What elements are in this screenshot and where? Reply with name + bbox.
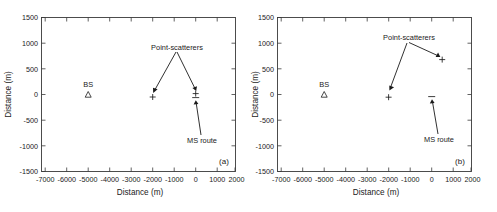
x-tick-label: -4000: [101, 175, 119, 184]
y-tick-label: -1000: [20, 142, 38, 151]
x-tick-label: -2000: [144, 175, 162, 184]
x-tick-label: -7000: [36, 175, 54, 184]
x-tick-label: -6000: [294, 175, 312, 184]
x-tick-label: 1000: [209, 175, 225, 184]
bs-marker-a: [85, 92, 91, 98]
x-axis-title: Distance (m): [117, 188, 164, 197]
y-tick-label: 1000: [258, 39, 274, 48]
bs-label-b: BS: [319, 80, 329, 89]
point-scatterers-label-b: Point-scatterers: [383, 33, 435, 42]
x-tick-label: 0: [194, 175, 198, 184]
y-tick-label: 1000: [22, 39, 38, 48]
scatterer-markers-a: [150, 91, 199, 100]
x-tick-label: -7000: [272, 175, 290, 184]
plot-frame-b: [278, 18, 472, 172]
y-tick-label: 500: [262, 65, 274, 74]
x-tick-label: 0: [430, 175, 434, 184]
x-axis-ticks-b: [281, 18, 471, 172]
bs-label-a: BS: [83, 80, 93, 89]
y-tick-label: -500: [260, 116, 274, 125]
y-tick-label: 500: [26, 65, 38, 74]
panel-b-plot: 1500 1000 500 0 -500 -1000 -1500 -7000 -…: [249, 0, 497, 212]
bs-marker-b: [321, 92, 327, 98]
y-axis-ticks-b: [278, 18, 472, 172]
point-scatterers-leader-a: [153, 52, 197, 93]
y-tick-label: 0: [34, 90, 38, 99]
y-axis-title: Distance (m): [4, 71, 13, 118]
y-axis-ticks-a: [42, 18, 236, 172]
x-axis-ticks-a: [45, 18, 235, 172]
x-tick-label: -3000: [358, 175, 376, 184]
x-axis-title: Distance (m): [353, 188, 400, 197]
x-tick-label: -3000: [122, 175, 140, 184]
y-tick-label: -1000: [256, 142, 274, 151]
point-scatterers-leader-b: [389, 43, 440, 91]
x-tick-label: -6000: [58, 175, 76, 184]
ms-route-label-b: MS route: [424, 135, 454, 144]
y-tick-label: 0: [270, 90, 274, 99]
y-tick-label: 1500: [22, 13, 38, 22]
x-tick-label: -1000: [401, 175, 419, 184]
scatterer-markers-b: [386, 57, 446, 101]
panel-tag-b: (b): [455, 157, 465, 166]
x-tick-label: -1000: [165, 175, 183, 184]
plot-frame-a: [42, 18, 236, 172]
x-tick-label: -2000: [380, 175, 398, 184]
y-tick-label: 1500: [258, 13, 274, 22]
y-tick-label: -500: [24, 116, 38, 125]
panel-a-plot: 1500 1000 500 0 -500 -1000 -1500 -7000 -…: [0, 0, 248, 212]
ms-route-leader-b: [430, 99, 438, 134]
panel-a: 1500 1000 500 0 -500 -1000 -1500 -7000 -…: [0, 0, 248, 212]
ms-route-label-a: MS route: [187, 136, 217, 145]
panel-tag-a: (a): [219, 157, 229, 166]
panel-b: 1500 1000 500 0 -500 -1000 -1500 -7000 -…: [249, 0, 497, 212]
ms-route-leader-a: [194, 100, 201, 135]
figure-root: 1500 1000 500 0 -500 -1000 -1500 -7000 -…: [0, 0, 497, 212]
x-tick-label: 2000: [465, 175, 481, 184]
x-tick-label: 2000: [229, 175, 245, 184]
point-scatterers-label-a: Point-scatterers: [151, 43, 203, 52]
x-tick-label: -5000: [315, 175, 333, 184]
y-axis-title: Distance (m): [251, 71, 260, 118]
x-tick-label: 1000: [445, 175, 461, 184]
x-tick-label: -5000: [79, 175, 97, 184]
x-tick-label: -4000: [337, 175, 355, 184]
